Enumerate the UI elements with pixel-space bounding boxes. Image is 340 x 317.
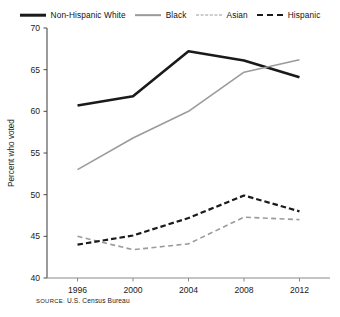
plot-area: 40455055606570 19962000200420082012 Perc… (0, 0, 340, 317)
y-tick-label: 50 (30, 190, 40, 200)
y-axis-label: Percent who voted (7, 119, 16, 187)
series-line (78, 196, 300, 245)
series-group (78, 51, 300, 249)
series-line (78, 51, 300, 105)
series-line (78, 60, 300, 170)
source-note: SOURCE: U.S. Census Bureau (36, 297, 130, 304)
voter-turnout-chart: Non-Hispanic White Black Asian Hispanic … (0, 0, 340, 317)
x-tick-label: 2008 (234, 285, 253, 295)
y-tick-label: 45 (30, 231, 40, 241)
y-tick-label: 60 (30, 106, 40, 116)
source-text: U.S. Census Bureau (65, 297, 130, 304)
source-keyword: SOURCE: (36, 298, 65, 304)
x-tick-label: 1996 (68, 285, 87, 295)
x-tick-label: 2012 (290, 285, 309, 295)
x-tick-label: 2004 (179, 285, 198, 295)
y-tick-label: 55 (30, 148, 40, 158)
plot-svg: 40455055606570 19962000200420082012 Perc… (0, 0, 340, 317)
x-tick-label: 2000 (123, 285, 142, 295)
y-tick-label: 65 (30, 65, 40, 75)
series-line (78, 217, 300, 250)
y-tick-label: 70 (30, 23, 40, 33)
y-tick-label: 40 (30, 273, 40, 283)
x-tick-group: 19962000200420082012 (68, 278, 309, 295)
y-tick-group: 40455055606570 (30, 23, 47, 283)
